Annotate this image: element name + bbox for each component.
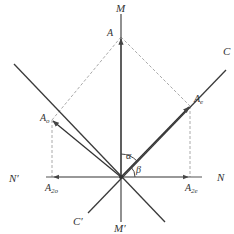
origin-point [119, 175, 123, 179]
label-C: C [223, 45, 231, 57]
label-A: A [106, 27, 114, 38]
axis-perpendicular [14, 64, 165, 222]
projection-diagram: M M′ N N′ C C′ A Ae Ao A2o A2e α β [0, 0, 234, 234]
label-Ao: Ao [39, 112, 50, 125]
vector-Ao [53, 121, 121, 177]
label-M-prime: M′ [113, 222, 126, 234]
dash-A-to-Ae [121, 37, 190, 106]
vector-Ae [121, 107, 189, 177]
label-C-prime: C′ [73, 215, 83, 227]
axis-C [88, 70, 226, 213]
dash-A-to-Ao [52, 37, 121, 120]
label-A2o: A2o [44, 182, 59, 195]
label-N-prime: N′ [8, 172, 19, 184]
label-alpha: α [126, 150, 132, 161]
label-N: N [216, 171, 225, 183]
label-beta: β [135, 164, 141, 175]
label-A2e: A2e [184, 182, 198, 195]
label-M: M [115, 2, 126, 14]
